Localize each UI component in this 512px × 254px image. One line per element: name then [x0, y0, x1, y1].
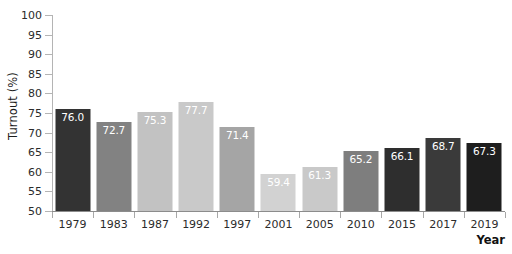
x-tick-label: 1992: [182, 218, 210, 231]
bar-value-label: 77.7: [179, 104, 214, 116]
x-tick-mark: [381, 212, 382, 218]
x-tick-mark: [464, 212, 465, 218]
x-tick-mark: [217, 212, 218, 218]
x-tick-mark: [299, 212, 300, 218]
bar[interactable]: 76.0: [55, 109, 90, 211]
bar-slot: 65.2: [340, 15, 381, 211]
bar-slot: 59.4: [258, 15, 299, 211]
bar[interactable]: 67.3: [467, 143, 502, 211]
x-tick-label: 2019: [470, 218, 498, 231]
bar[interactable]: 72.7: [96, 122, 131, 211]
bar-slot: 61.3: [299, 15, 340, 211]
x-axis-title: Year: [476, 233, 505, 247]
bar-value-label: 65.2: [343, 153, 378, 165]
x-tick-mark: [505, 212, 506, 218]
y-tick-mark: [45, 113, 52, 114]
y-tick-label: 95: [0, 28, 42, 41]
y-tick-mark: [45, 133, 52, 134]
y-tick-label: 50: [0, 205, 42, 218]
bar-value-label: 59.4: [261, 176, 296, 188]
bar-value-label: 71.4: [220, 129, 255, 141]
bars-layer: 76.072.775.377.771.459.461.365.266.168.7…: [52, 15, 505, 211]
y-tick-label: 85: [0, 67, 42, 80]
bar-slot: 71.4: [217, 15, 258, 211]
y-tick-mark: [45, 93, 52, 94]
bar[interactable]: 71.4: [220, 127, 255, 211]
x-axis-line: [52, 211, 505, 212]
x-tick-label: 1987: [141, 218, 169, 231]
y-tick-mark: [45, 191, 52, 192]
bar-value-label: 72.7: [96, 124, 131, 136]
x-tick-label: 1997: [223, 218, 251, 231]
x-tick-mark: [258, 212, 259, 218]
x-tick-label: 2005: [306, 218, 334, 231]
x-tick-label: 1979: [59, 218, 87, 231]
x-tick-mark: [134, 212, 135, 218]
y-tick-mark: [45, 74, 52, 75]
bar-chart: Turnout (%) 10095908580757065605550 76.0…: [0, 0, 512, 254]
bar-slot: 67.3: [464, 15, 505, 211]
y-tick-mark: [45, 15, 52, 16]
bar-value-label: 68.7: [426, 140, 461, 152]
x-tick-mark: [176, 212, 177, 218]
x-tick-label: 2017: [429, 218, 457, 231]
y-tick-label: 70: [0, 126, 42, 139]
bar[interactable]: 66.1: [385, 148, 420, 211]
x-tick-mark: [52, 212, 53, 218]
y-tick-label: 75: [0, 107, 42, 120]
bar-value-label: 66.1: [385, 150, 420, 162]
bar[interactable]: 65.2: [343, 151, 378, 211]
bar-slot: 76.0: [52, 15, 93, 211]
bar-slot: 72.7: [93, 15, 134, 211]
x-tick-label: 1983: [100, 218, 128, 231]
bar-slot: 66.1: [381, 15, 422, 211]
bar-slot: 77.7: [176, 15, 217, 211]
y-tick-label: 55: [0, 185, 42, 198]
x-tick-mark: [340, 212, 341, 218]
bar[interactable]: 77.7: [179, 102, 214, 211]
y-tick-label: 60: [0, 165, 42, 178]
bar-value-label: 61.3: [302, 169, 337, 181]
y-tick-label: 100: [0, 9, 42, 22]
x-tick-label: 2001: [265, 218, 293, 231]
x-tick-mark: [93, 212, 94, 218]
y-tick-label: 90: [0, 48, 42, 61]
y-tick-mark: [45, 152, 52, 153]
bar[interactable]: 59.4: [261, 174, 296, 211]
x-tick-label: 2015: [388, 218, 416, 231]
bar[interactable]: 61.3: [302, 167, 337, 211]
x-tick-mark: [423, 212, 424, 218]
x-tick-label: 2010: [347, 218, 375, 231]
bar-slot: 75.3: [134, 15, 175, 211]
y-tick-mark: [45, 172, 52, 173]
y-tick-mark: [45, 54, 52, 55]
y-tick-mark: [45, 211, 52, 212]
bar[interactable]: 75.3: [137, 112, 172, 211]
y-tick-mark: [45, 35, 52, 36]
bar-slot: 68.7: [423, 15, 464, 211]
bar-value-label: 75.3: [137, 114, 172, 126]
y-tick-label: 65: [0, 146, 42, 159]
bar-value-label: 67.3: [467, 145, 502, 157]
y-tick-label: 80: [0, 87, 42, 100]
bar[interactable]: 68.7: [426, 138, 461, 211]
bar-value-label: 76.0: [55, 111, 90, 123]
